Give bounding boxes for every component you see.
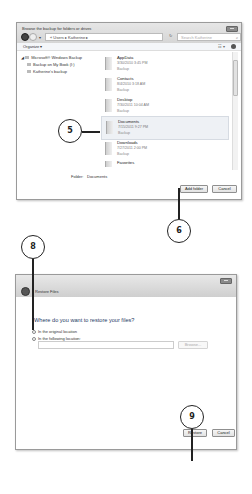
search-icon: ⌕	[236, 35, 238, 40]
callout-5: 5	[58, 119, 82, 143]
callout-8: 8	[21, 235, 45, 259]
dialog-title: Restore Files	[35, 289, 59, 294]
recent-pages-dropdown[interactable]: ▾	[39, 35, 41, 40]
toolbar: Organize ▾ ☷ ▾	[17, 43, 241, 51]
radio-unselected-icon[interactable]	[32, 337, 36, 341]
callout-6-line	[178, 188, 180, 219]
tree-item-windows-backup[interactable]: ◢ Microsoft® Windows Backup	[21, 55, 82, 60]
cancel-button[interactable]: Cancel	[212, 429, 235, 437]
back-button[interactable]	[21, 33, 29, 41]
help-icon[interactable]	[231, 44, 236, 49]
backup-icon	[27, 63, 31, 66]
tree-item-backup-my-book[interactable]: Backup on My Book (I:)	[27, 62, 75, 67]
browse-backup-dialog: Browse the backup for folders or drives …	[16, 22, 242, 200]
folder-field-value[interactable]: Documents	[87, 174, 107, 179]
folder-icon	[105, 57, 112, 70]
folder-icon	[105, 142, 112, 155]
backup-icon	[27, 70, 31, 73]
navigation-row: ▾ « Users ▸ Katherine ▸ ↻ Search Katheri…	[21, 33, 238, 42]
restore-button[interactable]: Restore	[183, 429, 207, 437]
radio-selected-icon[interactable]	[32, 330, 36, 334]
scroll-thumb[interactable]	[233, 60, 238, 96]
back-button[interactable]	[21, 287, 30, 296]
breadcrumb: « Users ▸ Katherine ▸	[50, 35, 88, 40]
add-folder-button[interactable]: Add folder	[180, 185, 208, 193]
radio-original-location[interactable]: In the original location	[32, 329, 77, 334]
folder-item-documents[interactable]: Documents 7/15/2011 9:27 PM Backup	[101, 116, 229, 140]
callout-9: 9	[180, 405, 204, 429]
folder-icon	[105, 78, 112, 91]
close-button[interactable]	[226, 26, 238, 32]
folder-field-label: Folder:	[71, 174, 83, 179]
folder-icon	[106, 121, 113, 134]
vertical-scrollbar[interactable]	[232, 52, 238, 170]
callout-9-line	[191, 429, 193, 461]
organize-menu[interactable]: Organize ▾	[23, 44, 42, 49]
callout-5-line	[82, 131, 100, 133]
navigation-pane: ◢ Microsoft® Windows Backup Backup on My…	[17, 52, 99, 170]
forward-button[interactable]	[29, 33, 37, 41]
search-placeholder: Search Katherine	[181, 35, 212, 40]
cancel-button[interactable]: Cancel	[212, 185, 237, 193]
callout-8-line	[32, 259, 34, 330]
views-icon[interactable]: ☷ ▾	[218, 44, 225, 49]
folder-icon	[105, 161, 112, 167]
browse-button[interactable]: Browse...	[178, 341, 208, 349]
restore-files-dialog: Restore Files Where do you want to resto…	[15, 274, 237, 450]
address-bar[interactable]: « Users ▸ Katherine ▸	[45, 33, 163, 41]
close-button[interactable]	[220, 278, 232, 284]
refresh-icon[interactable]: ↻	[165, 33, 175, 41]
folder-icon	[105, 99, 112, 112]
callout-6: 6	[167, 219, 191, 243]
backup-icon	[25, 56, 29, 59]
folder-list: AppData 3/30/2010 3:45 PM Backup Contact…	[101, 52, 231, 170]
location-input[interactable]	[38, 341, 174, 349]
search-input[interactable]: Search Katherine ⌕	[177, 33, 241, 41]
tree-item-katherines-backup[interactable]: Katherine's backup	[27, 69, 67, 74]
folder-item-favorites[interactable]: Favorites	[101, 158, 229, 170]
dialog-title: Browse the backup for folders or drives	[22, 26, 91, 31]
restore-question: Where do you want to restore your files?	[34, 317, 134, 323]
